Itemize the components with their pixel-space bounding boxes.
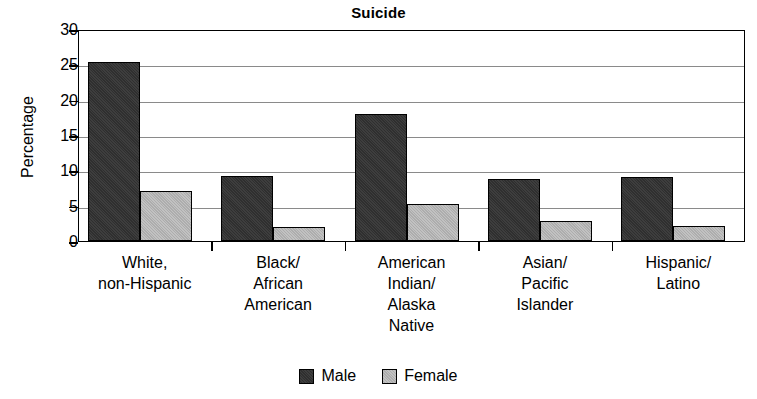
x-axis-category-labels: White, non-HispanicBlack/ African Americ… — [78, 252, 745, 357]
legend-label-male: Male — [321, 368, 356, 384]
x-category-label-3: Asian/ Pacific Islander — [478, 252, 611, 315]
legend-swatch-male — [299, 369, 314, 384]
bar-female-3 — [540, 221, 592, 241]
bar-chart-figure: Suicide Percentage 051015202530 White, n… — [0, 0, 757, 399]
bar-male-2 — [355, 114, 407, 241]
plot-area — [78, 30, 745, 242]
legend-item-male[interactable]: Male — [299, 368, 356, 384]
legend-label-female: Female — [404, 368, 457, 384]
bar-female-1 — [273, 227, 325, 241]
y-tick-label: 20 — [38, 93, 78, 109]
x-category-label-4: Hispanic/ Latino — [612, 252, 745, 294]
x-tick-mark — [211, 242, 213, 251]
bar-female-4 — [673, 226, 725, 241]
y-tick-label: 15 — [38, 128, 78, 144]
y-tick-label: 10 — [38, 163, 78, 179]
x-tick-mark — [345, 242, 347, 251]
gridline — [79, 137, 744, 138]
legend-swatch-female — [382, 369, 397, 384]
legend-item-female[interactable]: Female — [382, 368, 457, 384]
gridline — [79, 66, 744, 67]
y-tick-label: 0 — [38, 234, 78, 250]
x-category-label-0: White, non-Hispanic — [78, 252, 211, 294]
gridline — [79, 172, 744, 173]
bar-female-2 — [407, 204, 459, 241]
bar-male-3 — [488, 179, 540, 241]
x-category-label-1: Black/ African American — [211, 252, 344, 315]
bar-male-0 — [88, 62, 140, 241]
x-axis-ticks — [78, 242, 745, 252]
chart-title: Suicide — [0, 4, 757, 21]
x-tick-mark — [612, 242, 614, 251]
legend: MaleFemale — [0, 368, 757, 384]
bar-male-1 — [221, 176, 273, 241]
y-tick-label: 5 — [38, 199, 78, 215]
x-tick-mark — [478, 242, 480, 251]
bar-female-0 — [140, 191, 192, 241]
bar-male-4 — [621, 177, 673, 241]
y-axis-ticks: 051015202530 — [0, 0, 78, 399]
y-tick-label: 25 — [38, 57, 78, 73]
x-category-label-2: American Indian/ Alaska Native — [345, 252, 478, 336]
gridline — [79, 102, 744, 103]
y-tick-label: 30 — [38, 22, 78, 38]
